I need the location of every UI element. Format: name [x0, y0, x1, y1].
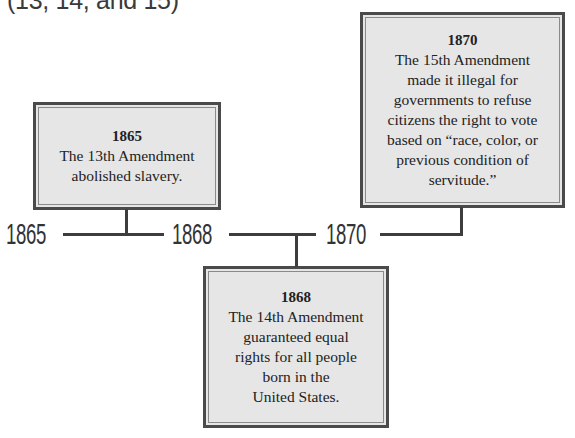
timeline-label-1865: 1865 — [6, 219, 46, 249]
timeline-segment-2 — [229, 233, 316, 236]
timeline-label-1870: 1870 — [326, 219, 366, 249]
event-box-1870: 1870 The 15th Amendment made it illegal … — [360, 12, 565, 208]
connector-1870 — [460, 207, 463, 236]
event-description: The 15th Amendment made it illegal for g… — [387, 50, 538, 190]
event-box-1868: 1868 The 14th Amendment guaranteed equal… — [203, 266, 389, 428]
page-heading: (13, 14, and 15) — [7, 0, 179, 15]
event-line: governments to refuse — [387, 90, 538, 110]
event-box-inner: 1868 The 14th Amendment guaranteed equal… — [208, 271, 384, 423]
event-description: The 13th Amendment abolished slavery. — [59, 146, 194, 186]
event-line: The 15th Amendment — [387, 50, 538, 70]
connector-1868 — [295, 233, 298, 267]
timeline-segment-1 — [63, 233, 164, 236]
timeline-label-1868: 1868 — [172, 219, 212, 249]
event-box-inner: 1865 The 13th Amendment abolished slaver… — [38, 107, 216, 205]
event-line: citizens the right to vote — [387, 110, 538, 130]
event-line: born in the — [228, 367, 363, 387]
connector-1865 — [125, 209, 128, 235]
event-year: 1868 — [281, 287, 311, 307]
event-line: abolished slavery. — [59, 166, 194, 186]
event-box-1865: 1865 The 13th Amendment abolished slaver… — [33, 102, 221, 210]
event-year: 1865 — [112, 126, 142, 146]
event-box-inner: 1870 The 15th Amendment made it illegal … — [365, 17, 560, 203]
event-line: rights for all people — [228, 347, 363, 367]
event-line: United States. — [228, 387, 363, 407]
event-line: The 14th Amendment — [228, 307, 363, 327]
event-line: The 13th Amendment — [59, 146, 194, 166]
event-line: guaranteed equal — [228, 327, 363, 347]
event-line: previous condition of — [387, 150, 538, 170]
event-line: made it illegal for — [387, 70, 538, 90]
event-year: 1870 — [448, 30, 478, 50]
event-line: servitude.” — [387, 170, 538, 190]
timeline-segment-3 — [380, 233, 463, 236]
event-line: based on “race, color, or — [387, 130, 538, 150]
event-description: The 14th Amendment guaranteed equal righ… — [228, 307, 363, 407]
